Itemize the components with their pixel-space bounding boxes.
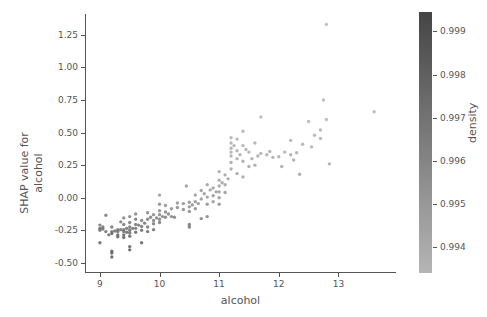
scatter-point: [319, 128, 322, 131]
scatter-point: [241, 160, 244, 163]
scatter-point: [158, 193, 161, 196]
scatter-point: [131, 227, 134, 230]
scatter-point: [128, 248, 131, 251]
scatter-point: [140, 219, 143, 222]
scatter-point: [319, 137, 322, 140]
scatter-point: [128, 221, 131, 224]
scatter-point: [206, 195, 209, 198]
scatter-point: [98, 223, 101, 226]
scatter-point: [217, 196, 220, 199]
scatter-point: [232, 144, 235, 147]
scatter-point: [289, 139, 292, 142]
scatter-point: [265, 153, 268, 156]
scatter-point: [107, 233, 110, 236]
scatter-point: [217, 184, 220, 187]
scatter-point: [223, 191, 226, 194]
scatter-point: [146, 211, 149, 214]
y-tick-mark: [81, 100, 85, 101]
scatter-point: [143, 221, 146, 224]
scatter-point: [161, 215, 164, 218]
scatter-point: [322, 98, 325, 101]
scatter-point: [140, 241, 143, 244]
scatter-point: [119, 228, 122, 231]
scatter-point: [229, 147, 232, 150]
scatter-point: [235, 149, 238, 152]
colorbar-gradient: [419, 12, 432, 273]
scatter-point: [188, 205, 191, 208]
scatter-point: [122, 223, 125, 226]
y-tick-label: 0.50: [58, 128, 78, 138]
scatter-point: [241, 130, 244, 133]
y-tick-label: 0.75: [58, 95, 78, 105]
scatter-point: [229, 161, 232, 164]
scatter-point: [128, 215, 131, 218]
colorbar-tick-mark: [433, 118, 437, 119]
scatter-point: [122, 236, 125, 239]
scatter-point: [128, 234, 131, 237]
scatter-point: [98, 229, 101, 232]
scatter-point: [247, 165, 250, 168]
scatter-point: [119, 220, 122, 223]
x-tick-mark: [338, 273, 339, 277]
scatter-point: [194, 200, 197, 203]
y-tick-label: 1.25: [58, 30, 78, 40]
scatter-point: [313, 133, 316, 136]
scatter-point: [125, 231, 128, 234]
y-tick-label: -0.50: [55, 258, 78, 268]
scatter-point: [283, 150, 286, 153]
scatter-point: [328, 162, 331, 165]
scatter-point: [191, 203, 194, 206]
scatter-point: [170, 207, 173, 210]
scatter-point: [173, 216, 176, 219]
x-tick-mark: [219, 273, 220, 277]
scatter-point: [268, 150, 271, 153]
scatter-point: [194, 207, 197, 210]
scatter-point: [182, 208, 185, 211]
y-tick-mark: [81, 263, 85, 264]
y-tick-mark: [81, 230, 85, 231]
scatter-point: [229, 150, 232, 153]
scatter-point: [113, 229, 116, 232]
scatter-point: [325, 118, 328, 121]
x-axis-label: alcohol: [85, 294, 396, 307]
scatter-point: [104, 214, 107, 217]
y-axis-label-line2: alcohol: [32, 132, 46, 214]
scatter-point: [134, 227, 137, 230]
scatter-point: [253, 141, 256, 144]
scatter-point: [104, 230, 107, 233]
colorbar-tick-mark: [433, 75, 437, 76]
scatter-point: [229, 141, 232, 144]
scatter-point: [146, 218, 149, 221]
y-tick-label: 0.25: [58, 160, 78, 170]
scatter-point: [122, 230, 125, 233]
scatter-point: [211, 200, 214, 203]
scatter-point: [325, 23, 328, 26]
scatter-plot-area: [85, 14, 395, 272]
scatter-point: [200, 217, 203, 220]
colorbar-tick-label: 0.998: [440, 70, 466, 80]
colorbar-tick-label: 0.996: [440, 156, 466, 166]
scatter-point: [259, 115, 262, 118]
scatter-point: [128, 225, 131, 228]
x-axis-spine: [85, 272, 396, 273]
scatter-point: [229, 167, 232, 170]
scatter-point: [98, 241, 101, 244]
scatter-point: [241, 144, 244, 147]
scatter-point: [229, 154, 232, 157]
colorbar-label: density: [466, 103, 479, 143]
scatter-point: [110, 251, 113, 254]
scatter-point: [164, 204, 167, 207]
colorbar-tick-mark: [433, 247, 437, 248]
scatter-point: [140, 225, 143, 228]
colorbar-tick-mark: [433, 204, 437, 205]
scatter-point: [134, 218, 137, 221]
figure-canvas: 1.251.000.750.500.250.00-0.25-0.50 91011…: [0, 0, 487, 317]
scatter-point: [253, 163, 256, 166]
scatter-point: [110, 255, 113, 258]
scatter-point: [197, 202, 200, 205]
scatter-point: [259, 152, 262, 155]
scatter-point: [158, 203, 161, 206]
scatter-point: [372, 110, 375, 113]
scatter-point: [137, 223, 140, 226]
scatter-point: [200, 197, 203, 200]
